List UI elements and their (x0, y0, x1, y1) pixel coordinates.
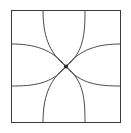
convergence-point (64, 64, 68, 68)
curve-figure-svg (0, 0, 131, 133)
figure-container (0, 0, 131, 133)
